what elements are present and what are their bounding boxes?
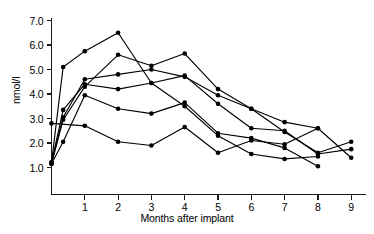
data-point-marker [216, 87, 221, 92]
data-point-marker [116, 72, 121, 77]
data-point-marker [61, 115, 66, 120]
data-point-marker [61, 65, 66, 70]
data-point-marker [316, 164, 321, 169]
x-axis-label: Months after implant [0, 212, 374, 224]
data-point-marker [182, 73, 187, 78]
data-point-marker [182, 100, 187, 105]
y-axis-ticks [47, 21, 52, 168]
x-tick-label: 6 [248, 201, 254, 213]
data-point-marker [61, 139, 66, 144]
data-point-marker [349, 155, 354, 160]
data-point-marker [49, 162, 54, 167]
x-tick-label: 3 [149, 201, 155, 213]
data-point-marker [116, 30, 121, 35]
data-point-marker [349, 147, 354, 152]
data-point-marker [83, 49, 88, 54]
chart-figure: nmol/l Months after implant 1.02.03.04.0… [0, 0, 374, 234]
x-tick-label: 9 [348, 201, 354, 213]
series-line [52, 54, 352, 164]
x-tick-label: 7 [282, 201, 288, 213]
x-tick-label: 4 [182, 201, 188, 213]
y-tick-label: 4.0 [0, 88, 44, 100]
data-point-marker [116, 139, 121, 144]
data-point-marker [249, 138, 254, 143]
series-line [52, 70, 352, 163]
data-point-marker [149, 67, 154, 72]
data-point-marker [49, 121, 54, 126]
data-point-marker [83, 124, 88, 129]
data-point-marker [282, 128, 287, 133]
data-point-marker [149, 111, 154, 116]
data-point-marker [149, 81, 154, 86]
plot-area [0, 0, 374, 234]
data-point-marker [249, 106, 254, 111]
x-tick-label: 8 [315, 201, 321, 213]
x-tick-label: 2 [115, 201, 121, 213]
y-tick-label: 6.0 [0, 39, 44, 51]
series-line [52, 76, 352, 163]
x-tick-label: 1 [82, 201, 88, 213]
data-point-marker [182, 51, 187, 56]
data-point-marker [83, 82, 88, 87]
y-tick-label: 2.0 [0, 137, 44, 149]
data-series-group [52, 33, 352, 167]
data-point-marker [249, 152, 254, 157]
data-point-marker [216, 151, 221, 156]
data-point-marker [149, 143, 154, 148]
data-point-marker [116, 87, 121, 92]
y-tick-label: 7.0 [0, 15, 44, 27]
x-tick-label: 5 [215, 201, 221, 213]
data-point-marker [182, 125, 187, 130]
data-point-marker [316, 126, 321, 131]
y-tick-label: 3.0 [0, 113, 44, 125]
data-point-marker [83, 93, 88, 98]
data-point-marker [282, 120, 287, 125]
data-point-marker [282, 157, 287, 162]
data-point-marker [61, 108, 66, 113]
data-point-marker [116, 106, 121, 111]
data-point-marker [116, 53, 121, 58]
data-point-marker [83, 77, 88, 82]
data-point-marker [316, 152, 321, 157]
data-point-marker [349, 139, 354, 144]
y-tick-label: 1.0 [0, 162, 44, 174]
data-point-marker [249, 126, 254, 131]
data-point-marker [216, 131, 221, 136]
y-tick-label: 5.0 [0, 64, 44, 76]
data-point-marker [216, 102, 221, 107]
axis-lines [52, 18, 367, 195]
x-axis-ticks [85, 195, 351, 200]
data-point-marker [216, 93, 221, 98]
data-point-marker [282, 142, 287, 147]
